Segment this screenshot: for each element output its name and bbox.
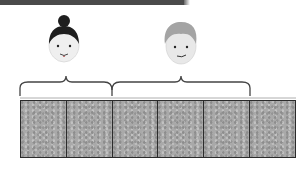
- tile-5: [204, 101, 250, 157]
- tile-3: [113, 101, 159, 157]
- tile-1: [21, 101, 67, 157]
- tile-4: [158, 101, 204, 157]
- tile-6: [250, 101, 295, 157]
- diagram-figures: [0, 0, 304, 100]
- man-face-icon: [165, 22, 197, 64]
- woman-face-icon: [49, 15, 79, 62]
- bracket-right: [112, 76, 250, 96]
- tile-row: [20, 100, 296, 158]
- bracket-left: [20, 76, 112, 96]
- tile-2: [67, 101, 113, 157]
